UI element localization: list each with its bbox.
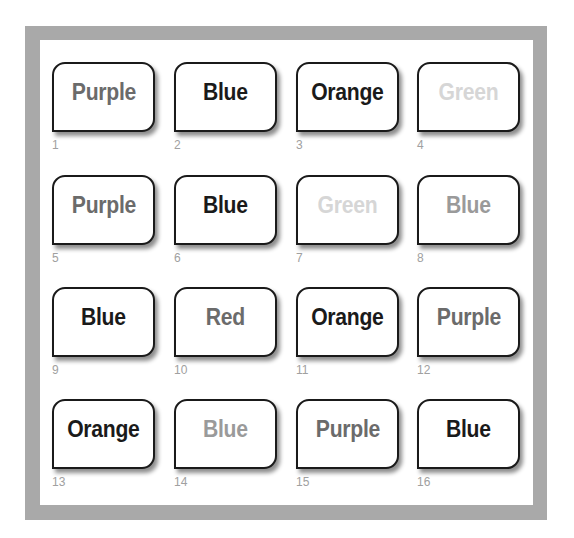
grid-cell-4: Green 4	[417, 62, 521, 152]
card-number: 15	[296, 475, 309, 489]
color-word-card[interactable]: Orange	[296, 62, 399, 132]
grid-cell-1: Purple 1	[52, 62, 156, 152]
grid-cell-9: Blue 9	[52, 287, 156, 377]
color-word: Blue	[203, 192, 248, 219]
card-number: 7	[296, 251, 303, 265]
card-number: 8	[417, 251, 424, 265]
color-word-card[interactable]: Purple	[52, 175, 155, 245]
grid-cell-7: Green 7	[296, 175, 400, 265]
color-word: Purple	[71, 192, 135, 219]
color-word: Blue	[203, 416, 248, 443]
color-word-card[interactable]: Purple	[52, 62, 155, 132]
grid-cell-16: Blue 16	[417, 399, 521, 489]
grid-cell-12: Purple 12	[417, 287, 521, 377]
card-number: 4	[417, 138, 424, 152]
grid-cell-3: Orange 3	[296, 62, 400, 152]
color-word: Green	[439, 79, 499, 106]
color-word: Orange	[311, 304, 383, 331]
color-word-card[interactable]: Purple	[417, 287, 520, 357]
color-word-card[interactable]: Green	[417, 62, 520, 132]
color-word: Orange	[67, 416, 139, 443]
color-word-card[interactable]: Blue	[417, 175, 520, 245]
grid-cell-5: Purple 5	[52, 175, 156, 265]
color-word: Purple	[436, 304, 500, 331]
color-word: Blue	[81, 304, 126, 331]
color-word: Purple	[71, 79, 135, 106]
color-word-card[interactable]: Blue	[52, 287, 155, 357]
card-number: 1	[52, 138, 59, 152]
color-word: Blue	[446, 416, 491, 443]
color-word: Purple	[315, 416, 379, 443]
card-number: 14	[174, 475, 187, 489]
grid-cell-15: Purple 15	[296, 399, 400, 489]
color-word-card[interactable]: Blue	[417, 399, 520, 469]
color-word: Red	[206, 304, 245, 331]
card-grid-frame: Purple 1 Blue 2 Orange 3 Green 4 Purple	[25, 26, 547, 520]
grid-cell-10: Red 10	[174, 287, 278, 377]
grid-cell-14: Blue 14	[174, 399, 278, 489]
grid-cell-8: Blue 8	[417, 175, 521, 265]
card-number: 9	[52, 363, 59, 377]
color-word-card[interactable]: Purple	[296, 399, 399, 469]
card-number: 16	[417, 475, 430, 489]
grid-cell-11: Orange 11	[296, 287, 400, 377]
card-number: 12	[417, 363, 430, 377]
color-word-card[interactable]: Red	[174, 287, 277, 357]
card-number: 6	[174, 251, 181, 265]
card-number: 2	[174, 138, 181, 152]
card-number: 10	[174, 363, 187, 377]
card-number: 5	[52, 251, 59, 265]
color-word-card[interactable]: Green	[296, 175, 399, 245]
grid-cell-13: Orange 13	[52, 399, 156, 489]
color-word: Orange	[311, 79, 383, 106]
color-word: Blue	[203, 79, 248, 106]
card-number: 3	[296, 138, 303, 152]
color-word-card[interactable]: Orange	[52, 399, 155, 469]
card-number: 13	[52, 475, 65, 489]
color-word-card[interactable]: Orange	[296, 287, 399, 357]
color-word-card[interactable]: Blue	[174, 62, 277, 132]
color-word-card[interactable]: Blue	[174, 399, 277, 469]
card-number: 11	[296, 363, 308, 377]
color-word: Green	[318, 192, 378, 219]
color-word: Blue	[446, 192, 491, 219]
color-word-card[interactable]: Blue	[174, 175, 277, 245]
grid-cell-2: Blue 2	[174, 62, 278, 152]
card-grid-panel: Purple 1 Blue 2 Orange 3 Green 4 Purple	[40, 40, 533, 505]
grid-cell-6: Blue 6	[174, 175, 278, 265]
